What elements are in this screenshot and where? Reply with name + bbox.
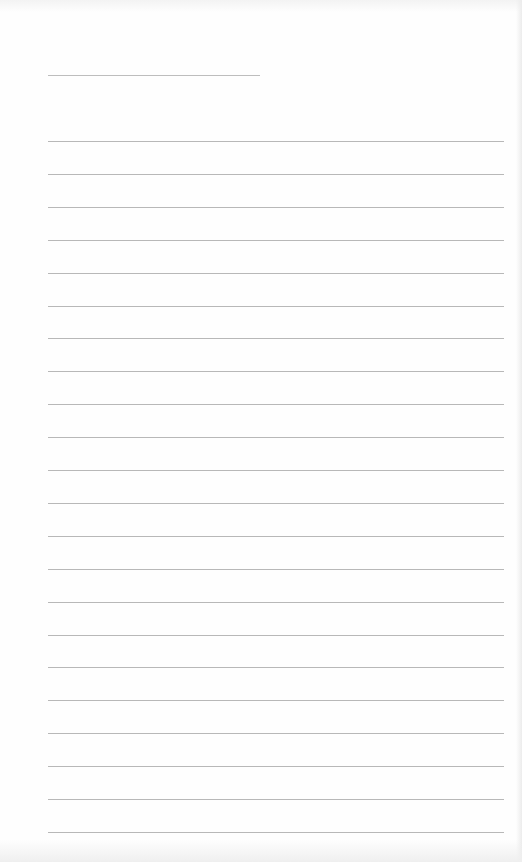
scan-shadow-top [0, 0, 522, 12]
ruled-line [48, 240, 504, 241]
ruled-line [48, 141, 504, 142]
ruled-line [48, 437, 504, 438]
ruled-line [48, 174, 504, 175]
ruled-line [48, 602, 504, 603]
ruled-line [48, 635, 504, 636]
ruled-line [48, 338, 504, 339]
title-rule-line [48, 75, 260, 76]
scan-shadow-right [516, 0, 522, 862]
ruled-line [48, 306, 504, 307]
ruled-line [48, 569, 504, 570]
ruled-line [48, 207, 504, 208]
ruled-line [48, 536, 504, 537]
ruled-line [48, 667, 504, 668]
ruled-line [48, 832, 504, 833]
ruled-line [48, 470, 504, 471]
ruled-line [48, 733, 504, 734]
ruled-line [48, 700, 504, 701]
ruled-line [48, 503, 504, 504]
ruled-line [48, 404, 504, 405]
lined-paper-page [0, 0, 522, 862]
ruled-line [48, 371, 504, 372]
scan-shadow-bottom [0, 840, 522, 862]
ruled-line [48, 766, 504, 767]
ruled-line [48, 273, 504, 274]
ruled-line [48, 799, 504, 800]
